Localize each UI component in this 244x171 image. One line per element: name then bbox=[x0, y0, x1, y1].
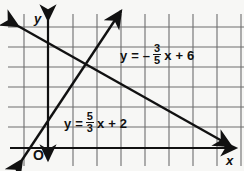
eq2-plus: + bbox=[108, 117, 116, 130]
eq1-plus: + bbox=[175, 49, 183, 62]
origin-label: O bbox=[33, 148, 44, 162]
eq1-numerator: 3 bbox=[153, 43, 161, 54]
graph-figure: y = – 3 5 x + 6 y = 5 3 x + 2 y x O bbox=[0, 0, 244, 171]
equation-label-line-2: y = 5 3 x + 2 bbox=[62, 112, 129, 135]
eq1-denominator: 5 bbox=[153, 54, 161, 66]
x-axis-label: x bbox=[226, 154, 233, 167]
eq1-y: y bbox=[120, 49, 127, 62]
equation-label-line-1: y = – 3 5 x + 6 bbox=[118, 44, 196, 67]
eq2-fraction: 5 3 bbox=[86, 111, 94, 134]
y-axis-label: y bbox=[34, 12, 41, 25]
eq2-y: y bbox=[64, 117, 71, 130]
eq1-constant: 6 bbox=[187, 49, 194, 62]
line-five-thirds bbox=[22, 11, 121, 160]
eq2-constant: 2 bbox=[120, 117, 127, 130]
eq1-sign: – bbox=[143, 49, 150, 62]
eq1-equals: = bbox=[131, 49, 139, 62]
eq2-variable: x bbox=[97, 117, 104, 130]
eq1-variable: x bbox=[164, 49, 171, 62]
eq1-fraction: 3 5 bbox=[153, 43, 161, 66]
eq2-denominator: 3 bbox=[86, 122, 94, 134]
eq2-numerator: 5 bbox=[86, 111, 94, 122]
eq2-equals: = bbox=[75, 117, 83, 130]
